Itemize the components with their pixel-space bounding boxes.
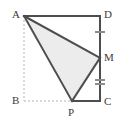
vertex-label-b: B <box>12 95 19 106</box>
geometry-figure: ADMCPB <box>0 0 120 122</box>
vertex-label-p: P <box>68 107 74 118</box>
vertex-label-d: D <box>104 9 112 20</box>
vertex-label-m: M <box>104 52 114 63</box>
vertex-label-c: C <box>104 96 111 107</box>
shaded-triangle-amp <box>24 16 100 101</box>
vertex-label-a: A <box>12 9 20 20</box>
